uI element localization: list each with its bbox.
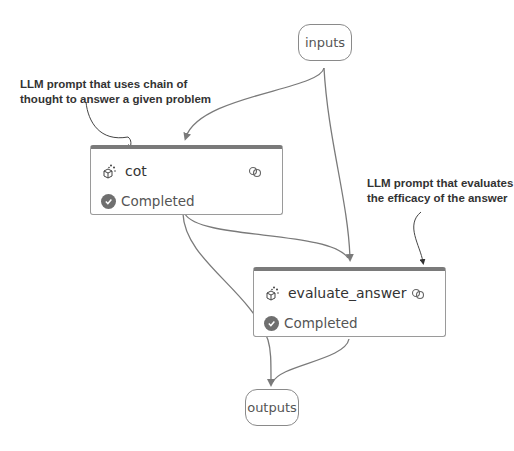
cot-status: Completed — [121, 193, 195, 209]
link-icon[interactable] — [411, 287, 425, 301]
evaluate-answer-node[interactable]: evaluate_answer Completed — [253, 267, 446, 337]
llm-sparkle-cube-icon — [101, 163, 117, 179]
check-circle-icon — [101, 194, 116, 209]
check-circle-icon — [264, 316, 279, 331]
flow-edges — [0, 0, 514, 451]
outputs-label: outputs — [247, 400, 297, 415]
cot-annotation: LLM prompt that uses chain of thought to… — [20, 77, 211, 107]
edge-inputs-to-evaluate — [324, 68, 350, 258]
llm-sparkle-cube-icon — [264, 285, 280, 301]
edge-cot-to-evaluate — [185, 214, 348, 258]
inputs-node[interactable]: inputs — [298, 24, 352, 61]
annotation-arrow-evaluate — [414, 212, 423, 262]
evaluate-answer-status: Completed — [284, 315, 358, 331]
cot-node[interactable]: cot Completed — [90, 145, 283, 215]
evaluate-answer-title: evaluate_answer — [288, 285, 407, 301]
link-icon[interactable] — [248, 165, 262, 179]
evaluate-annotation-line1: LLM prompt that evaluates — [367, 176, 513, 191]
evaluate-annotation-line2: the efficacy of the answer — [367, 191, 513, 206]
annotation-arrow-cot — [86, 102, 131, 148]
cot-annotation-line1: LLM prompt that uses chain of — [20, 77, 211, 92]
inputs-label: inputs — [305, 35, 345, 50]
evaluate-annotation: LLM prompt that evaluates the efficacy o… — [367, 176, 513, 206]
outputs-node[interactable]: outputs — [245, 389, 299, 426]
cot-annotation-line2: thought to answer a given problem — [20, 92, 211, 107]
cot-title: cot — [125, 163, 147, 179]
edge-evaluate-to-outputs — [273, 339, 349, 382]
